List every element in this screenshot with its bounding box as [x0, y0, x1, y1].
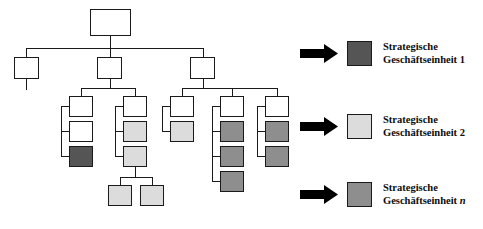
legend-label-sbu-1: StrategischeGeschäftseinheit 1 — [383, 40, 465, 66]
org-node-l2-e[interactable] — [265, 96, 289, 117]
org-node-l2-c1[interactable] — [170, 121, 194, 142]
connector-line — [212, 106, 213, 182]
org-node-l2-a[interactable] — [69, 96, 93, 117]
org-node-l2-b2[interactable] — [123, 146, 147, 167]
org-node-l2-a2[interactable] — [69, 146, 93, 167]
connector-line — [26, 79, 27, 90]
legend-label-line2: Geschäftseinheit 2 — [383, 126, 465, 139]
org-node-l2-d2[interactable] — [220, 146, 244, 167]
legend-item-sbu-n: StrategischeGeschäftseinheit n — [300, 181, 466, 207]
legend-swatch-sbu-2 — [347, 114, 372, 139]
connector-line — [81, 88, 136, 89]
legend-swatch-sbu-n — [347, 182, 372, 207]
diagram-canvas: StrategischeGeschäftseinheit 1Strategisc… — [0, 0, 483, 229]
legend-label-line1: Strategische — [383, 113, 465, 126]
org-node-l2-c[interactable] — [170, 96, 194, 117]
org-node-l2-d1[interactable] — [220, 121, 244, 142]
right-arrow-icon — [300, 117, 338, 136]
connector-line — [26, 48, 203, 49]
connector-line — [135, 167, 136, 177]
right-arrow-icon — [300, 185, 338, 204]
legend-label-index: 2 — [460, 127, 465, 138]
org-node-l1-a[interactable] — [14, 57, 39, 79]
legend-label-index: n — [460, 195, 466, 206]
org-node-l2-d[interactable] — [220, 96, 244, 117]
org-node-l2-b2x[interactable] — [108, 185, 132, 206]
legend-label-index: 1 — [460, 54, 465, 65]
legend-label-line2: Geschäftseinheit 1 — [383, 53, 465, 66]
org-node-l2-b[interactable] — [123, 96, 147, 117]
legend-item-sbu-1: StrategischeGeschäftseinheit 1 — [300, 40, 465, 66]
legend-label-line2: Geschäftseinheit n — [383, 194, 466, 207]
org-node-l2-e2[interactable] — [265, 146, 289, 167]
org-node-l2-d3[interactable] — [220, 171, 244, 192]
org-node-l2-b1[interactable] — [123, 121, 147, 142]
legend-item-sbu-2: StrategischeGeschäftseinheit 2 — [300, 113, 465, 139]
org-node-l1-b[interactable] — [97, 57, 122, 79]
org-node-l2-e1[interactable] — [265, 121, 289, 142]
org-node-l2-b2y[interactable] — [140, 185, 164, 206]
connector-line — [182, 88, 277, 89]
org-node-root[interactable] — [90, 9, 131, 36]
connector-line — [120, 177, 152, 178]
org-node-l2-a1[interactable] — [69, 121, 93, 142]
connector-line — [162, 106, 163, 132]
legend-label-sbu-2: StrategischeGeschäftseinheit 2 — [383, 113, 465, 139]
legend-label-sbu-n: StrategischeGeschäftseinheit n — [383, 181, 466, 207]
legend-label-line1: Strategische — [383, 181, 466, 194]
legend-swatch-sbu-1 — [347, 41, 372, 66]
org-node-l1-c[interactable] — [190, 57, 215, 79]
right-arrow-icon — [300, 44, 338, 63]
legend-label-line1: Strategische — [383, 40, 465, 53]
